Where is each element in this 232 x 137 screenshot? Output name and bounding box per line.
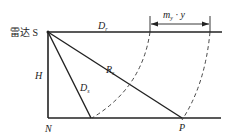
inner-range-arc: [92, 32, 150, 118]
dr-label: Dr: [97, 20, 108, 32]
rs-label: Rs: [105, 64, 115, 76]
radar-geometry-diagram: 雷达 S Dr Rs Ds H N P my · y: [0, 0, 232, 137]
n-label: N: [44, 123, 53, 134]
h-label: H: [34, 70, 43, 81]
near-slant-line: [48, 32, 91, 118]
p-label: P: [178, 122, 185, 133]
arrow-right-icon: [202, 22, 209, 27]
arrow-left-icon: [151, 22, 158, 27]
radar-label: 雷达 S: [10, 27, 38, 38]
outer-range-arc: [182, 32, 210, 120]
radar-point: [47, 31, 50, 34]
slant-range-line: [48, 32, 182, 118]
ds-label: Ds: [79, 82, 90, 94]
dimension-label: my · y: [163, 9, 185, 21]
